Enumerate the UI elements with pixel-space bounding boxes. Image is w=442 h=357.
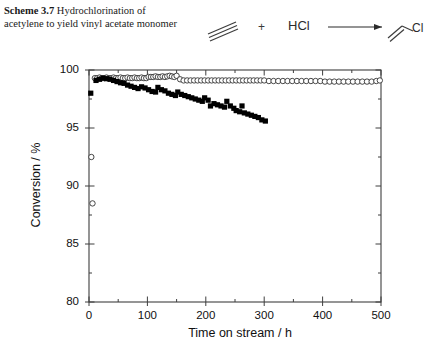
data-point-square [153,89,158,94]
x-tick-label: 0 [69,309,109,321]
hcl-label: HCl [288,18,310,33]
y-tick-label: 85 [49,237,79,249]
x-tick-label: 300 [244,309,284,321]
data-point-square [206,98,211,103]
data-point-square [224,99,229,104]
data-point-square [222,105,227,110]
acetylene-icon [208,22,238,41]
x-tick-label: 400 [303,309,343,321]
y-tick-label: 90 [49,179,79,191]
data-point-circle [90,201,95,206]
chlorine-label: Cl [412,21,423,35]
plus-sign: + [258,20,265,34]
x-tick-label: 100 [127,309,167,321]
x-tick-label: 500 [361,309,401,321]
data-point-square [239,103,244,108]
data-point-square [88,91,93,96]
reaction-scheme-svg [196,8,440,52]
x-tick-label: 200 [186,309,226,321]
vinyl-chloride-icon [388,26,413,42]
data-point-square [263,118,268,123]
y-tick-label: 100 [49,63,79,75]
data-point-square [237,109,242,114]
reaction-arrow-icon [328,24,382,30]
y-tick-label: 80 [49,295,79,307]
y-axis-label: Conversion / % [29,125,43,245]
reaction-scheme: + HCl Cl [196,8,440,52]
plot-frame [89,70,381,302]
conversion-vs-time-chart: Conversion / % Time on stream / h 808590… [0,56,442,357]
y-tick-label: 95 [49,121,79,133]
scheme-caption: Scheme 3.7 Hydrochlorination of acetylen… [4,4,182,30]
scheme-caption-label: Scheme 3.7 [4,5,54,16]
data-point-circle [89,154,94,159]
data-point-circle [377,78,382,83]
series-open-circles [89,73,383,206]
x-axis-label: Time on stream / h [120,326,360,340]
